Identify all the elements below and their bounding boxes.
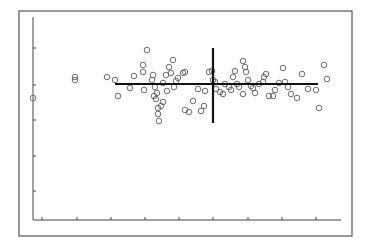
data-point (202, 88, 208, 94)
data-point (190, 98, 196, 104)
data-point (140, 69, 146, 75)
data-point (140, 62, 146, 68)
data-point (168, 70, 174, 76)
data-point (155, 111, 161, 117)
data-point (230, 74, 236, 80)
axes (33, 17, 341, 220)
data-point (115, 93, 121, 99)
data-point (166, 64, 172, 70)
data-point (127, 85, 133, 91)
data-point (313, 87, 319, 93)
data-point (141, 87, 147, 93)
data-point (305, 86, 311, 92)
chart-frame (19, 11, 352, 236)
data-point (131, 73, 137, 79)
data-point (182, 69, 188, 75)
data-point (321, 62, 327, 68)
data-point (240, 58, 246, 64)
data-point (104, 74, 110, 80)
data-point (316, 105, 322, 111)
scatter-chart (0, 0, 370, 248)
data-point (270, 93, 276, 99)
data-point (170, 57, 176, 63)
data-point (164, 88, 170, 94)
data-point (195, 86, 201, 92)
data-point (280, 65, 286, 71)
data-points (30, 47, 330, 124)
data-point (144, 47, 150, 53)
data-point (272, 87, 278, 93)
data-point (294, 95, 300, 101)
data-point (201, 103, 207, 109)
data-point (288, 91, 294, 97)
data-point (112, 77, 118, 83)
data-point (299, 71, 305, 77)
data-point (156, 118, 162, 124)
data-point (252, 90, 258, 96)
data-point (240, 91, 246, 97)
data-point (324, 76, 330, 82)
data-point (245, 77, 251, 83)
mean-crosshair (115, 48, 318, 123)
data-point (232, 68, 238, 74)
